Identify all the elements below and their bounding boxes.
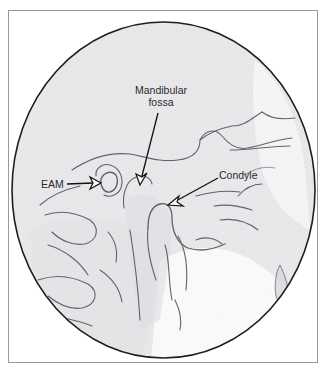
condyle-label: Condyle: [219, 169, 258, 181]
mandibular-fossa-label-line2: fossa: [131, 96, 191, 108]
eam-label: EAM: [41, 178, 64, 190]
mandibular-fossa-label: Mandibular fossa: [131, 84, 191, 108]
mandibular-fossa-label-line1: Mandibular: [131, 84, 191, 96]
